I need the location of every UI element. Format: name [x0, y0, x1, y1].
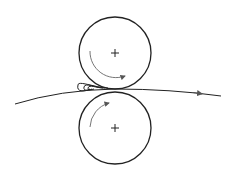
center-mark-icon — [111, 49, 119, 57]
web-direction-arrow-icon — [193, 93, 202, 94]
nip-roll-diagram — [0, 0, 232, 173]
bottom-roll — [79, 92, 151, 164]
rotation-arrow-icon — [90, 103, 109, 127]
center-mark-icon — [111, 124, 119, 132]
web-line — [15, 89, 221, 104]
rotation-arrow-icon — [90, 51, 125, 78]
top-roll — [79, 17, 151, 89]
